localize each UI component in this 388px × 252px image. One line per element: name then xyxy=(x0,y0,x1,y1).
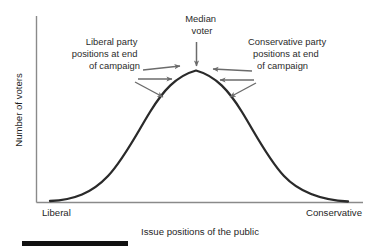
liberal-party-line2: positions at end xyxy=(72,48,138,59)
x-axis-title: Issue positions of the public xyxy=(141,226,259,237)
conservative-party-line3: of campaign xyxy=(257,60,308,71)
x-tick-liberal: Liberal xyxy=(42,207,71,218)
median-voter-line1: Median xyxy=(185,13,216,24)
caption-rule xyxy=(22,241,128,246)
bell-curve-figure: Median voter Liberal party positions at … xyxy=(0,0,388,252)
y-axis-title: Number of voters xyxy=(13,73,24,147)
liberal-party-line3: of campaign xyxy=(89,60,140,71)
chart-canvas: Median voter Liberal party positions at … xyxy=(0,0,388,252)
liberal-party-line1: Liberal party xyxy=(86,36,138,47)
conservative-party-line2: positions at end xyxy=(253,48,319,59)
x-tick-conservative: Conservative xyxy=(306,207,362,218)
median-voter-line2: voter xyxy=(192,25,213,36)
conservative-party-line1: Conservative party xyxy=(248,36,326,47)
